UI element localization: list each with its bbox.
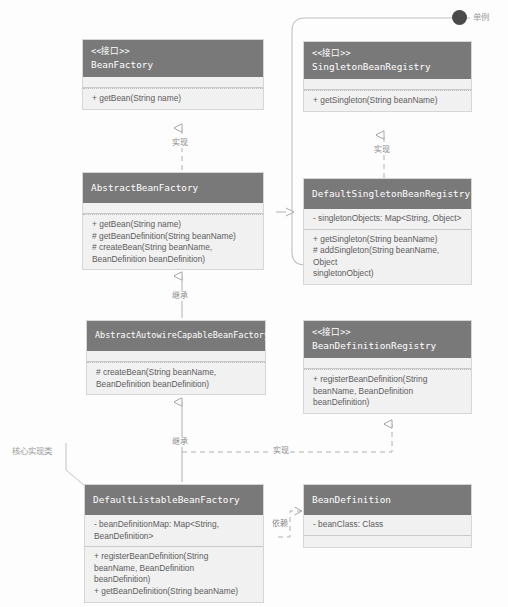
class-header-abstractbeanfactory: AbstractBeanFactory: [83, 173, 263, 203]
class-box-beandefinitionregistry[interactable]: <<接口>> BeanDefinitionRegistry + register…: [303, 320, 472, 414]
edge-label-extends-abstractbeanfactory: 继承: [171, 291, 189, 301]
method-line: # createBean(String beanName, BeanDefini…: [92, 242, 256, 265]
uml-diagram-canvas: BeanFactory --> SingletonBeanRegistry --…: [0, 0, 508, 607]
class-methods-defaultlistablebeanfactory: + registerBeanDefinition(String beanName…: [85, 547, 263, 601]
edge-label-implements-beanfactory: 实现: [171, 138, 189, 148]
attribute-line: - beanClass: Class: [313, 519, 464, 531]
class-methods-abstractbeanfactory: + getBean(String name) # getBeanDefiniti…: [83, 214, 263, 269]
class-box-beandefinition[interactable]: BeanDefinition - beanClass: Class: [303, 484, 472, 548]
class-header-defaultsingletonbeanregistry: DefaultSingletonBeanRegistry: [304, 179, 471, 209]
class-name-beandefinition: BeanDefinition: [312, 493, 463, 506]
attribute-line: - singletonObjects: Map<String, Object>: [313, 213, 464, 225]
edge-label-implements-singletonbeanregistry: 实现: [373, 145, 391, 155]
method-line: + getBean(String name): [92, 93, 256, 105]
class-stereotype-singletonbeanregistry: <<接口>>: [312, 47, 463, 59]
class-header-beanfactory: <<接口>> BeanFactory: [83, 40, 263, 77]
class-box-beanfactory[interactable]: <<接口>> BeanFactory + getBean(String name…: [82, 39, 264, 110]
method-line: + registerBeanDefinition(String beanName…: [94, 551, 256, 586]
class-attrs-abstractbeanfactory: [83, 203, 263, 214]
singleton-marker-dot-top: [452, 10, 467, 25]
method-line: + getBeanDefinition(String beanName): [94, 586, 256, 598]
method-line: + getBean(String name): [92, 219, 256, 231]
attribute-line: - beanDefinitionMap: Map<String, BeanDef…: [94, 519, 256, 542]
class-methods-abstractautowirecapablebeanfactory: # createBean(String beanName, BeanDefini…: [87, 362, 265, 394]
class-methods-beanfactory: + getBean(String name): [83, 88, 263, 109]
class-methods-defaultsingletonbeanregistry: + getSingleton(String beanName) # addSin…: [304, 230, 471, 284]
class-name-abstractautowirecapablebeanfactory: AbstractAutowireCapableBeanFactory: [95, 329, 257, 342]
edge-label-extends-aacbf: 继承: [171, 437, 189, 447]
class-name-singletonbeanregistry: SingletonBeanRegistry: [312, 60, 463, 73]
class-methods-beandefinitionregistry: + registerBeanDefinition(String beanName…: [304, 369, 471, 413]
method-line: + registerBeanDefinition(String beanName…: [313, 374, 464, 409]
class-attrs-singletonbeanregistry: [304, 79, 471, 90]
class-box-defaultlistablebeanfactory[interactable]: DefaultListableBeanFactory - beanDefinit…: [84, 484, 264, 603]
method-line: # createBean(String beanName, BeanDefini…: [96, 367, 258, 390]
class-box-defaultsingletonbeanregistry[interactable]: DefaultSingletonBeanRegistry - singleton…: [303, 178, 472, 285]
class-attrs-beandefinitionregistry: [304, 358, 471, 369]
core-impl-class-label: 核心实现类: [12, 446, 52, 457]
edge-label-depends-beandefinition: 依赖: [271, 519, 289, 529]
class-methods-beandefinition: [304, 536, 471, 547]
class-name-beanfactory: BeanFactory: [91, 58, 255, 71]
class-header-beandefinition: BeanDefinition: [304, 485, 471, 515]
class-name-defaultlistablebeanfactory: DefaultListableBeanFactory: [93, 493, 255, 506]
class-name-abstractbeanfactory: AbstractBeanFactory: [91, 181, 255, 194]
method-line: + getSingleton(String beanName): [313, 95, 464, 107]
method-line: # addSingleton(String beanName, Object s…: [313, 245, 464, 280]
class-header-beandefinitionregistry: <<接口>> BeanDefinitionRegistry: [304, 321, 471, 358]
class-box-abstractautowirecapablebeanfactory[interactable]: AbstractAutowireCapableBeanFactory # cre…: [86, 320, 266, 395]
class-box-abstractbeanfactory[interactable]: AbstractBeanFactory + getBean(String nam…: [82, 172, 264, 270]
core-impl-callout-leader: [66, 443, 85, 486]
method-line: # getBeanDefinition(String beanName): [92, 231, 256, 243]
class-attrs-defaultlistablebeanfactory: - beanDefinitionMap: Map<String, BeanDef…: [85, 515, 263, 547]
class-name-defaultsingletonbeanregistry: DefaultSingletonBeanRegistry: [312, 187, 463, 200]
class-attrs-beandefinition: - beanClass: Class: [304, 515, 471, 536]
class-stereotype-beanfactory: <<接口>>: [91, 45, 255, 57]
class-attrs-beanfactory: [83, 77, 263, 88]
singleton-group-label: 单例: [473, 12, 489, 23]
class-stereotype-beandefinitionregistry: <<接口>>: [312, 326, 463, 338]
class-header-defaultlistablebeanfactory: DefaultListableBeanFactory: [85, 485, 263, 515]
class-methods-singletonbeanregistry: + getSingleton(String beanName): [304, 90, 471, 111]
class-attrs-abstractautowirecapablebeanfactory: [87, 351, 265, 362]
edge-label-implements-beandefinitionregistry: 实现: [272, 446, 290, 456]
class-box-singletonbeanregistry[interactable]: <<接口>> SingletonBeanRegistry + getSingle…: [303, 41, 472, 112]
class-header-abstractautowirecapablebeanfactory: AbstractAutowireCapableBeanFactory: [87, 321, 265, 351]
class-header-singletonbeanregistry: <<接口>> SingletonBeanRegistry: [304, 42, 471, 79]
method-line: + getSingleton(String beanName): [313, 234, 464, 246]
class-attrs-defaultsingletonbeanregistry: - singletonObjects: Map<String, Object>: [304, 209, 471, 230]
class-name-beandefinitionregistry: BeanDefinitionRegistry: [312, 339, 463, 352]
